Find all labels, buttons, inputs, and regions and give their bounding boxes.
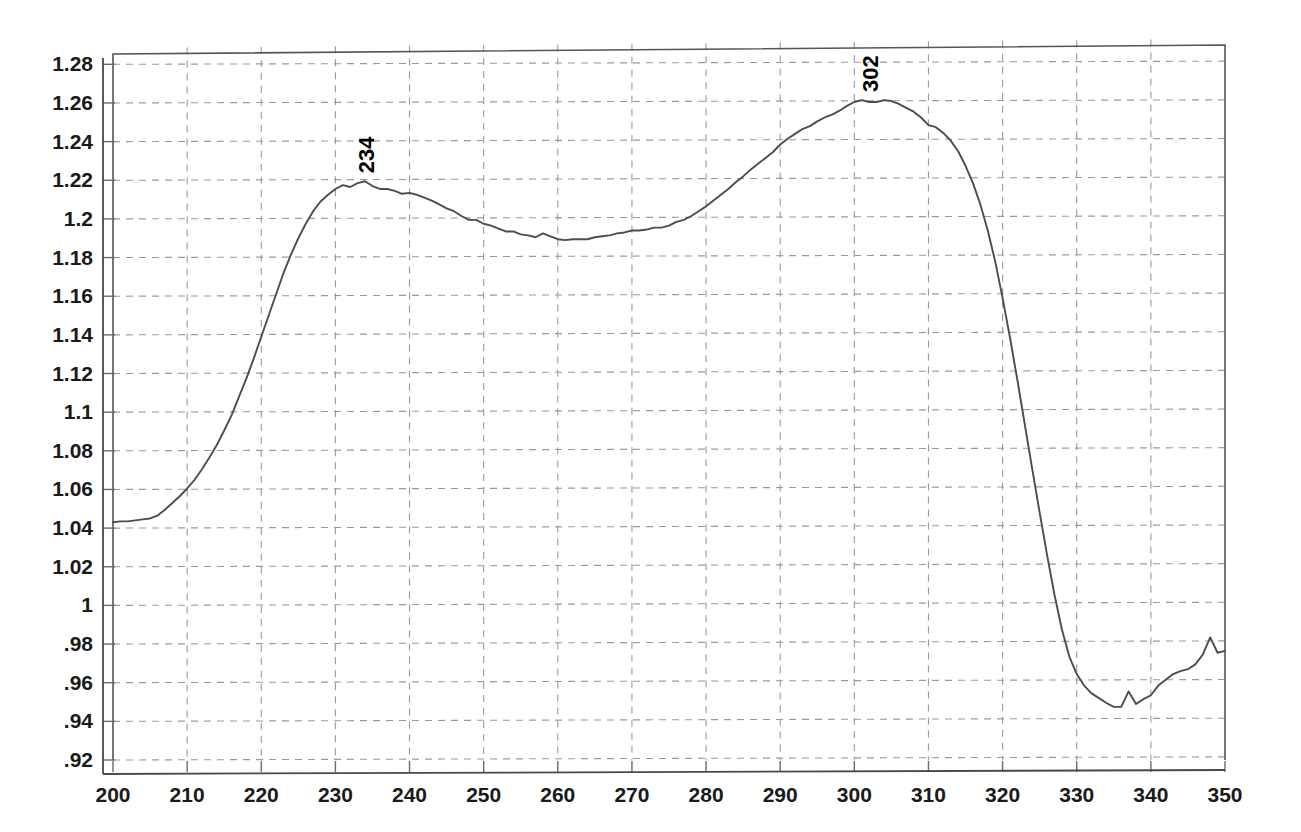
x-tick-label: 330 (1059, 783, 1094, 806)
y-tick-label: .96 (64, 671, 93, 694)
y-tick-label: 1.22 (52, 168, 93, 191)
x-tick-label: 280 (689, 783, 724, 806)
y-tick-label: 1.14 (52, 323, 93, 346)
gridline-horizontal (113, 177, 1225, 180)
x-tick-label: 270 (614, 783, 649, 806)
gridline-horizontal (113, 602, 1225, 605)
x-tick-label: 200 (95, 783, 130, 806)
gridline-horizontal (113, 100, 1225, 103)
peak-label: 302 (858, 55, 883, 92)
gridline-horizontal (113, 564, 1225, 567)
y-tick-label: 1.08 (52, 439, 93, 462)
vertical-gridlines (187, 40, 1151, 760)
gridline-horizontal (113, 216, 1225, 219)
data-series-group (113, 100, 1225, 707)
gridline-horizontal (113, 641, 1225, 644)
peak-annotations: 234302 (354, 55, 883, 173)
x-tick-label: 340 (1133, 783, 1168, 806)
x-axis-line (103, 770, 1225, 774)
peak-label: 234 (354, 136, 379, 173)
x-tick-label: 240 (392, 783, 427, 806)
y-tick-label: 1.06 (52, 477, 93, 500)
x-tick-label: 290 (763, 783, 798, 806)
plot-frame (113, 45, 1225, 760)
gridline-horizontal (113, 332, 1225, 335)
plot-border (113, 45, 1225, 760)
x-tick-label: 350 (1207, 783, 1242, 806)
gridline-horizontal (113, 757, 1225, 760)
y-tick-label: 1.24 (52, 130, 93, 153)
gridline-horizontal (113, 61, 1225, 64)
x-tick-label: 310 (911, 783, 946, 806)
gridline-horizontal (113, 370, 1225, 373)
y-tick-label: .98 (64, 632, 94, 655)
y-tick-label: 1.16 (52, 284, 93, 307)
x-tick-label: 210 (170, 783, 205, 806)
chart-container: .92.94.96.9811.021.041.061.081.11.121.14… (0, 0, 1301, 832)
y-tick-label: 1.28 (52, 52, 93, 75)
x-tick-label: 320 (985, 783, 1020, 806)
gridline-horizontal (113, 525, 1225, 528)
gridline-horizontal (113, 254, 1225, 257)
x-tick-label: 220 (244, 783, 279, 806)
gridline-horizontal (113, 718, 1225, 721)
gridline-horizontal (113, 409, 1225, 412)
y-tick-label: 1.2 (64, 207, 93, 230)
y-tick-label: 1.04 (52, 516, 93, 539)
horizontal-gridlines (113, 61, 1225, 760)
y-tick-label: 1.18 (52, 246, 93, 269)
x-tick-label: 250 (466, 783, 501, 806)
y-axis-tick-labels: .92.94.96.9811.021.041.061.081.11.121.14… (52, 52, 93, 771)
y-tick-label: 1 (81, 593, 93, 616)
y-tick-label: .92 (64, 748, 93, 771)
series-line-spectrum (113, 100, 1225, 707)
outer-axis-lines (103, 58, 1225, 774)
y-tick-label: 1.02 (52, 555, 93, 578)
gridline-horizontal (113, 138, 1225, 141)
y-tick-label: 1.26 (52, 91, 93, 114)
x-axis-tick-labels: 2002102202302402502602702802903003103203… (95, 783, 1242, 806)
y-tick-label: 1.1 (64, 400, 94, 423)
gridline-horizontal (113, 448, 1225, 451)
gridline-horizontal (113, 680, 1225, 683)
x-tick-label: 300 (837, 783, 872, 806)
x-tick-label: 230 (318, 783, 353, 806)
y-tick-label: .94 (64, 709, 94, 732)
x-tick-label: 260 (540, 783, 575, 806)
y-tick-label: 1.12 (52, 362, 93, 385)
line-chart: .92.94.96.9811.021.041.061.081.11.121.14… (0, 0, 1301, 832)
gridline-horizontal (113, 293, 1225, 296)
gridline-horizontal (113, 486, 1225, 489)
